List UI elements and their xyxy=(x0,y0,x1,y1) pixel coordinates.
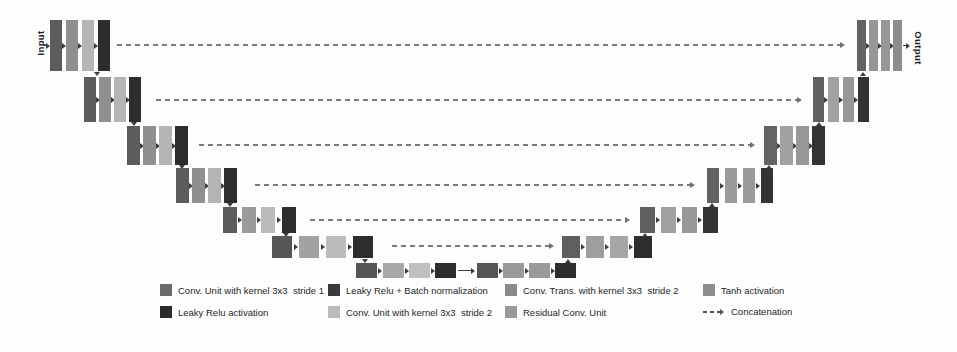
decoder-level-4-unit-3 xyxy=(743,168,755,203)
encoder-level-5-unit-2 xyxy=(242,207,256,233)
downsample-arrow-icon xyxy=(94,72,100,76)
bottleneck-unit-2 xyxy=(383,263,404,278)
decoder-level-4-unit-1 xyxy=(707,168,719,203)
encoder-level-3-unit-4 xyxy=(175,126,188,165)
bottleneck-unit-1 xyxy=(356,263,377,278)
concatenation-arrowhead-icon xyxy=(625,217,630,223)
decoder-level-2-unit-3 xyxy=(843,77,854,122)
encoder-level-3-unit-1 xyxy=(127,126,140,165)
encoder-level-6-unit-3 xyxy=(326,236,346,258)
legend-item: Tanh activation xyxy=(703,284,784,296)
concatenation-arrow xyxy=(310,219,625,221)
encoder-level-2-unit-1 xyxy=(84,77,96,122)
decoder-level-5-unit-2 xyxy=(661,207,676,233)
flow-arrow-icon xyxy=(321,244,325,250)
flow-arrow-icon xyxy=(257,217,261,223)
encoder-level-6-unit-4 xyxy=(353,236,373,258)
encoder-level-1-unit-1 xyxy=(50,20,62,71)
upsample-arrow-icon xyxy=(565,259,571,263)
legend-label: Concatenation xyxy=(731,306,792,317)
bottleneck-unit-3 xyxy=(409,263,430,278)
decoder-level-3-unit-1 xyxy=(764,126,777,165)
decoder-level-6-unit-1 xyxy=(562,236,580,258)
flow-arrow-icon xyxy=(656,217,660,223)
legend-label: Leaky Relu + Batch normalization xyxy=(346,285,488,296)
concatenation-arrow xyxy=(392,245,549,247)
legend-label: Conv. Unit with kernel 3x3 stride 2 xyxy=(346,307,492,318)
decoder-level-5-unit-3 xyxy=(682,207,697,233)
decoder-level-2-unit-1 xyxy=(813,77,824,122)
legend-label: Conv. Unit with kernel 3x3 stride 1 xyxy=(178,285,324,296)
flow-arrow-icon xyxy=(348,244,352,250)
bottleneck-unit-7 xyxy=(529,263,550,278)
flow-arrow-icon xyxy=(720,183,724,189)
flow-arrow-icon xyxy=(525,268,529,274)
decoder-level-6-unit-3 xyxy=(610,236,628,258)
downsample-arrow-icon xyxy=(227,203,233,207)
decoder-level-2-unit-2 xyxy=(828,77,839,122)
decoder-level-5-unit-4 xyxy=(703,207,718,233)
legend-label: Leaky Relu activation xyxy=(178,307,268,318)
concatenation-arrow xyxy=(255,184,690,186)
concatenation-arrowhead-icon xyxy=(750,142,755,148)
decoder-level-4-unit-2 xyxy=(725,168,737,203)
legend-item: Leaky Relu activation xyxy=(160,306,268,318)
flow-arrow-icon xyxy=(405,268,409,274)
upsample-arrow-icon xyxy=(766,165,772,169)
downsample-arrow-icon xyxy=(179,165,185,169)
flow-arrow-icon xyxy=(629,244,633,250)
unet-architecture-diagram: Input Output Conv. Unit with kernel 3x3 … xyxy=(0,0,957,352)
bottleneck-unit-5 xyxy=(477,263,498,278)
decoder-level-4-unit-4 xyxy=(761,168,773,203)
upsample-arrow-icon xyxy=(816,122,822,126)
downsample-arrow-icon xyxy=(283,233,289,237)
legend-swatch-icon xyxy=(160,284,172,296)
legend-item: Leaky Relu + Batch normalization xyxy=(328,284,488,296)
legend-item: Conv. Unit with kernel 3x3 stride 1 xyxy=(160,284,324,296)
bottleneck-unit-8 xyxy=(555,263,576,278)
encoder-level-2-unit-2 xyxy=(99,77,111,122)
flow-arrow-icon xyxy=(499,268,503,274)
bottleneck-unit-6 xyxy=(503,263,524,278)
concatenation-arrowhead-icon xyxy=(840,42,845,48)
decoder-level-6-unit-4 xyxy=(634,236,652,258)
upsample-arrow-icon xyxy=(642,233,648,237)
legend-item: Residual Conv. Unit xyxy=(505,306,606,318)
flow-arrow-icon xyxy=(698,217,702,223)
upsample-arrow-icon xyxy=(709,203,715,207)
concatenation-arrowhead-icon xyxy=(549,243,554,249)
encoder-level-5-unit-1 xyxy=(223,207,237,233)
concatenation-arrowhead-icon xyxy=(690,182,695,188)
legend-label: Conv. Trans. with kernel 3x3 stride 2 xyxy=(523,285,679,296)
legend-swatch-icon xyxy=(505,306,517,318)
legend-swatch-icon xyxy=(160,306,172,318)
encoder-level-3-unit-2 xyxy=(143,126,156,165)
output-label: Output xyxy=(913,31,924,65)
encoder-level-2-unit-4 xyxy=(129,77,141,122)
downsample-arrow-icon xyxy=(362,259,368,263)
flow-arrow-icon xyxy=(605,244,609,250)
encoder-level-1-unit-3 xyxy=(82,20,94,71)
flow-arrow-icon xyxy=(378,268,382,274)
decoder-level-3-unit-3 xyxy=(796,126,809,165)
legend-item: Conv. Unit with kernel 3x3 stride 2 xyxy=(328,306,492,318)
encoder-level-6-unit-1 xyxy=(272,236,292,258)
decoder-level-3-unit-2 xyxy=(780,126,793,165)
encoder-level-1-unit-2 xyxy=(66,20,78,71)
decoder-level-3-unit-4 xyxy=(812,126,825,165)
encoder-level-2-unit-3 xyxy=(114,77,126,122)
flow-arrow-icon xyxy=(294,244,298,250)
legend-label: Residual Conv. Unit xyxy=(523,307,606,318)
concatenation-arrowhead-icon xyxy=(797,97,802,103)
bottleneck-arrowhead-icon xyxy=(471,268,475,274)
flow-arrow-icon xyxy=(431,268,435,274)
encoder-level-5-unit-4 xyxy=(282,207,296,233)
flow-arrow-icon xyxy=(738,183,742,189)
concatenation-symbol-icon xyxy=(703,309,725,315)
concatenation-arrow xyxy=(199,144,750,146)
output-arrowhead-icon xyxy=(906,43,910,49)
bottleneck-unit-4 xyxy=(435,263,456,278)
downsample-arrow-icon xyxy=(131,122,137,126)
flow-arrow-icon xyxy=(756,183,760,189)
encoder-level-4-unit-1 xyxy=(176,168,189,203)
